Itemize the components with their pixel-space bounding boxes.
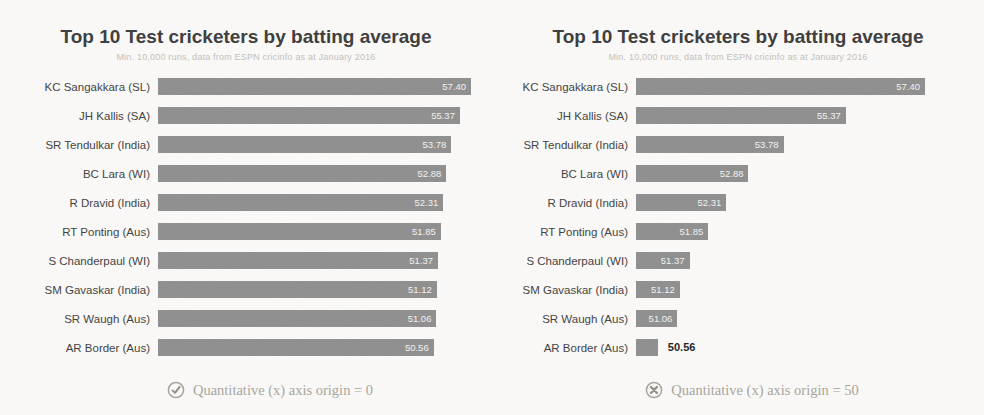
bar-row: S Chanderpaul (WI)51.37 bbox=[492, 246, 984, 275]
bar: 55.37 bbox=[158, 107, 460, 124]
chart-title: Top 10 Test cricketers by batting averag… bbox=[0, 26, 492, 48]
bar-track: 55.37 bbox=[158, 107, 471, 124]
bar: 57.40 bbox=[158, 78, 471, 95]
value-label: 52.31 bbox=[697, 197, 726, 208]
bar-track: 57.40 bbox=[636, 78, 925, 95]
value-label: 50.56 bbox=[405, 342, 434, 353]
bar-track: 50.56 bbox=[158, 339, 471, 356]
bar bbox=[636, 339, 658, 356]
bar: 51.37 bbox=[636, 252, 690, 269]
bar-track: 51.06 bbox=[636, 310, 925, 327]
bar-track: 52.31 bbox=[158, 194, 471, 211]
bar: 52.31 bbox=[636, 194, 726, 211]
bar: 52.88 bbox=[636, 165, 748, 182]
bar: 51.85 bbox=[158, 223, 441, 240]
bar-track: 51.12 bbox=[158, 281, 471, 298]
bar-row: SR Tendulkar (India)53.78 bbox=[492, 130, 984, 159]
bar-row: RT Ponting (Aus)51.85 bbox=[0, 217, 492, 246]
category-label: SR Tendulkar (India) bbox=[492, 139, 636, 151]
bar: 51.37 bbox=[158, 252, 438, 269]
bar: 53.78 bbox=[636, 136, 784, 153]
category-label: S Chanderpaul (WI) bbox=[0, 255, 158, 267]
category-label: BC Lara (WI) bbox=[492, 168, 636, 180]
bar-track: 51.37 bbox=[636, 252, 925, 269]
bar-row: SR Waugh (Aus)51.06 bbox=[492, 304, 984, 333]
axis-origin-caption: Quantitative (x) axis origin = 50 bbox=[506, 381, 984, 399]
value-label: 57.40 bbox=[896, 81, 925, 92]
bar-row: JH Kallis (SA)55.37 bbox=[492, 101, 984, 130]
bar: 55.37 bbox=[636, 107, 846, 124]
bar-row: RT Ponting (Aus)51.85 bbox=[492, 217, 984, 246]
value-label: 51.06 bbox=[649, 313, 678, 324]
category-label: AR Border (Aus) bbox=[0, 342, 158, 354]
category-label: SR Tendulkar (India) bbox=[0, 139, 158, 151]
bar-row: SR Waugh (Aus)51.06 bbox=[0, 304, 492, 333]
bar: 53.78 bbox=[158, 136, 451, 153]
value-label: 50.56 bbox=[668, 339, 696, 356]
value-label: 55.37 bbox=[431, 110, 460, 121]
bar-row: SR Tendulkar (India)53.78 bbox=[0, 130, 492, 159]
value-label: 52.31 bbox=[414, 197, 443, 208]
bar-track: 50.56 bbox=[636, 339, 925, 356]
value-label: 51.06 bbox=[408, 313, 437, 324]
chart-subtitle: Min. 10,000 runs, data from ESPN cricinf… bbox=[0, 52, 492, 62]
bar-row: R Dravid (India)52.31 bbox=[0, 188, 492, 217]
cross-circle-icon bbox=[645, 381, 663, 399]
category-label: S Chanderpaul (WI) bbox=[492, 255, 636, 267]
bar-row: JH Kallis (SA)55.37 bbox=[0, 101, 492, 130]
bar-track: 51.37 bbox=[158, 252, 471, 269]
category-label: JH Kallis (SA) bbox=[0, 110, 158, 122]
chart-panel-origin-50: Top 10 Test cricketers by batting averag… bbox=[492, 0, 984, 415]
bar: 52.88 bbox=[158, 165, 446, 182]
chart-subtitle: Min. 10,000 runs, data from ESPN cricinf… bbox=[492, 52, 984, 62]
category-label: SM Gavaskar (India) bbox=[0, 284, 158, 296]
category-label: R Dravid (India) bbox=[0, 197, 158, 209]
value-label: 53.78 bbox=[755, 139, 784, 150]
bar-row: SM Gavaskar (India)51.12 bbox=[492, 275, 984, 304]
bar-track: 55.37 bbox=[636, 107, 925, 124]
bar-row: BC Lara (WI)52.88 bbox=[492, 159, 984, 188]
chart-title: Top 10 Test cricketers by batting averag… bbox=[492, 26, 984, 48]
bar-row: AR Border (Aus)50.56 bbox=[0, 333, 492, 362]
value-label: 53.78 bbox=[422, 139, 451, 150]
bar-track: 53.78 bbox=[636, 136, 925, 153]
category-label: AR Border (Aus) bbox=[492, 342, 636, 354]
bar: 51.12 bbox=[636, 281, 680, 298]
category-label: RT Ponting (Aus) bbox=[0, 226, 158, 238]
bar-row: KC Sangakkara (SL)57.40 bbox=[492, 72, 984, 101]
bar: 51.85 bbox=[636, 223, 708, 240]
value-label: 52.88 bbox=[720, 168, 749, 179]
bar-track: 57.40 bbox=[158, 78, 471, 95]
bar-row: BC Lara (WI)52.88 bbox=[0, 159, 492, 188]
value-label: 51.12 bbox=[651, 284, 680, 295]
bar-track: 51.85 bbox=[636, 223, 925, 240]
bar-row: AR Border (Aus)50.56 bbox=[492, 333, 984, 362]
category-label: SR Waugh (Aus) bbox=[0, 313, 158, 325]
category-label: KC Sangakkara (SL) bbox=[492, 81, 636, 93]
bar-track: 51.06 bbox=[158, 310, 471, 327]
value-label: 55.37 bbox=[817, 110, 846, 121]
two-panel-comparison: Top 10 Test cricketers by batting averag… bbox=[0, 0, 984, 415]
chart-panel-origin-0: Top 10 Test cricketers by batting averag… bbox=[0, 0, 492, 415]
bar-chart-rows: KC Sangakkara (SL)57.40JH Kallis (SA)55.… bbox=[492, 72, 984, 362]
axis-origin-caption-text: Quantitative (x) axis origin = 0 bbox=[193, 382, 373, 399]
bar-track: 52.88 bbox=[636, 165, 925, 182]
bar-row: R Dravid (India)52.31 bbox=[492, 188, 984, 217]
bar-track: 51.12 bbox=[636, 281, 925, 298]
category-label: SR Waugh (Aus) bbox=[492, 313, 636, 325]
category-label: R Dravid (India) bbox=[492, 197, 636, 209]
bar-row: KC Sangakkara (SL)57.40 bbox=[0, 72, 492, 101]
value-label: 51.85 bbox=[412, 226, 441, 237]
bar: 52.31 bbox=[158, 194, 443, 211]
axis-origin-caption: Quantitative (x) axis origin = 0 bbox=[24, 381, 516, 399]
bar-row: S Chanderpaul (WI)51.37 bbox=[0, 246, 492, 275]
bar: 51.06 bbox=[158, 310, 436, 327]
bar: 51.06 bbox=[636, 310, 677, 327]
bar-track: 52.88 bbox=[158, 165, 471, 182]
category-label: BC Lara (WI) bbox=[0, 168, 158, 180]
bar-row: SM Gavaskar (India)51.12 bbox=[0, 275, 492, 304]
value-label: 51.12 bbox=[408, 284, 437, 295]
value-label: 57.40 bbox=[442, 81, 471, 92]
axis-origin-caption-text: Quantitative (x) axis origin = 50 bbox=[671, 382, 858, 399]
value-label: 52.88 bbox=[418, 168, 447, 179]
